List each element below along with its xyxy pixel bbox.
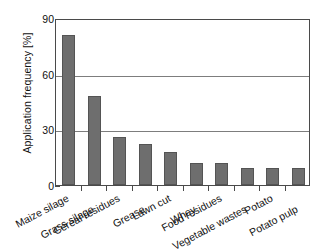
gridline (56, 76, 309, 77)
y-axis-tick-mark (55, 186, 60, 187)
bar (113, 137, 126, 185)
bar (266, 168, 279, 185)
y-axis-tick-label: 30 (14, 125, 54, 135)
bar (190, 163, 203, 185)
bar (164, 152, 177, 185)
y-axis-tick-label: 60 (14, 70, 54, 80)
x-axis-tick-mark (157, 186, 158, 191)
bar-chart-figure: Application frequency [%] 0306090 Maize … (0, 0, 322, 250)
bar (139, 144, 152, 185)
plot-area (55, 19, 310, 186)
bar (292, 168, 305, 185)
x-axis-tick-mark (259, 186, 260, 191)
bar (241, 168, 254, 185)
y-axis-tick-label: 90 (14, 14, 54, 24)
bar (62, 35, 75, 185)
y-axis-title: Application frequency [%] (21, 13, 33, 173)
x-axis-tick-mark (106, 186, 107, 191)
x-axis-tick-mark (234, 186, 235, 191)
x-axis-tick-mark (183, 186, 184, 191)
x-axis-tick-mark (81, 186, 82, 191)
bar (88, 96, 101, 185)
x-axis-tick-mark (285, 186, 286, 191)
bar (215, 163, 228, 185)
x-axis-tick-mark (132, 186, 133, 191)
x-axis-tick-mark (208, 186, 209, 191)
y-axis-tick-label: 0 (14, 181, 54, 191)
